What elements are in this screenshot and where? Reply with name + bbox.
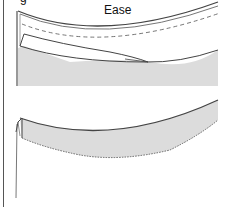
bottom-panel [16,100,218,198]
top-panel [17,2,220,86]
sewing-illustration [0,0,227,207]
